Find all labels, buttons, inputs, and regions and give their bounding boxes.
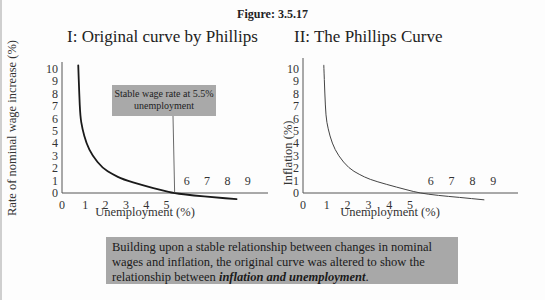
x-tick-label: 1 — [324, 198, 330, 212]
y-tick-label: 8 — [293, 87, 299, 101]
y-tick-label: 9 — [52, 74, 58, 88]
y-tick-label: 2 — [52, 161, 58, 175]
y-tick-label: 9 — [293, 74, 299, 88]
curve-2 — [324, 65, 484, 200]
x-tick-label: 0 — [300, 198, 306, 212]
x-tick-label: 0 — [59, 198, 65, 212]
x-axis-label-2: Unemployment (%) — [340, 205, 440, 219]
x-tick-label: 7 — [204, 174, 210, 188]
x-tick-label: 6 — [184, 174, 190, 188]
y-tick-label: 4 — [52, 136, 58, 150]
caption-emphasis: inflation and unemployment — [219, 270, 366, 284]
y-tick-label: 7 — [293, 99, 299, 113]
x-tick-label: 7 — [449, 174, 455, 188]
y-tick-label: 10 — [46, 62, 58, 76]
x-tick-label: 9 — [490, 174, 496, 188]
y-tick-label: 1 — [52, 174, 58, 188]
y-tick-label: 6 — [52, 112, 58, 126]
y-tick-label: 0 — [52, 186, 58, 200]
y-tick-label: 7 — [52, 99, 58, 113]
x-tick-label: 6 — [428, 174, 434, 188]
caption-end: . — [365, 270, 368, 284]
y-tick-label: 3 — [52, 149, 58, 163]
x-tick-label: 1 — [82, 198, 88, 212]
y-axis-label-1: Rate of nominal wage increase (%) — [5, 40, 19, 216]
x-tick-label: 9 — [245, 174, 251, 188]
annotation-pointer — [173, 116, 175, 193]
y-tick-label: 5 — [52, 124, 58, 138]
y-tick-label: 10 — [287, 62, 299, 76]
y-tick-label: 8 — [52, 87, 58, 101]
x-axis-label-1: Unemployment (%) — [95, 205, 195, 219]
caption-box: Building upon a stable relationship betw… — [106, 237, 458, 284]
y-axis-label-2: Inflation (%) — [281, 121, 295, 186]
y-tick-label: 0 — [293, 186, 299, 200]
annotation-text: Stable wage rate at 5.5% unemployment — [114, 88, 213, 111]
x-tick-label: 8 — [224, 174, 230, 188]
x-tick-label: 8 — [469, 174, 475, 188]
annotation-box: Stable wage rate at 5.5% unemployment — [112, 85, 216, 116]
